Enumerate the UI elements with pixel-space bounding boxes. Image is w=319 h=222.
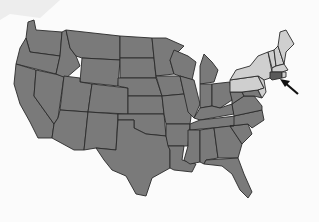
states-default: [14, 20, 264, 198]
state-washington: [26, 20, 62, 56]
state-new-mexico: [84, 112, 118, 150]
state-south-dakota: [120, 58, 156, 78]
state-rhode-island: [282, 72, 286, 78]
state-indiana: [200, 84, 212, 108]
state-michigan: [200, 54, 218, 84]
states-highlighted-northeast: [230, 30, 294, 98]
state-connecticut: [270, 72, 282, 80]
state-kansas: [128, 96, 164, 114]
state-colorado: [88, 84, 128, 114]
state-ohio: [212, 82, 232, 108]
arrow-indicator: [280, 79, 298, 94]
us-map-svg: [0, 0, 319, 222]
state-arkansas: [166, 124, 190, 146]
background-smudge: [0, 0, 60, 20]
state-florida: [204, 158, 252, 198]
state-north-dakota: [120, 36, 154, 58]
state-wisconsin: [170, 50, 196, 80]
us-map: [0, 0, 319, 222]
state-wyoming: [80, 58, 120, 86]
state-new-york: [230, 52, 272, 80]
